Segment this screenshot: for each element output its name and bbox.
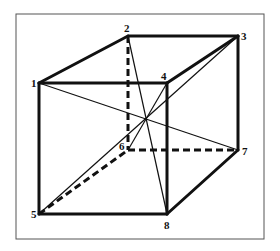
- diagonal-1-7: [39, 83, 238, 150]
- edge-1-2: [39, 36, 128, 83]
- vertex-label-3: 3: [241, 30, 247, 42]
- cube-diagram: 1 2 3 4 5 6 7 8: [0, 0, 280, 251]
- diagonal-2-8: [128, 36, 167, 214]
- vertex-label-1: 1: [31, 77, 37, 89]
- vertex-label-2: 2: [124, 22, 130, 34]
- hidden-edge-5-6: [39, 150, 128, 214]
- diagonal-3-5: [39, 36, 238, 214]
- vertex-labels: 1 2 3 4 5 6 7 8: [31, 22, 248, 231]
- vertex-label-8: 8: [164, 219, 170, 231]
- diagonal-4-6: [128, 83, 167, 150]
- vertex-label-7: 7: [242, 145, 248, 157]
- vertex-label-5: 5: [31, 208, 37, 220]
- edge-3-4: [167, 36, 238, 83]
- edge-7-8: [167, 150, 238, 214]
- vertex-label-6: 6: [119, 140, 125, 152]
- space-diagonals: [39, 36, 238, 214]
- vertex-label-4: 4: [161, 70, 167, 82]
